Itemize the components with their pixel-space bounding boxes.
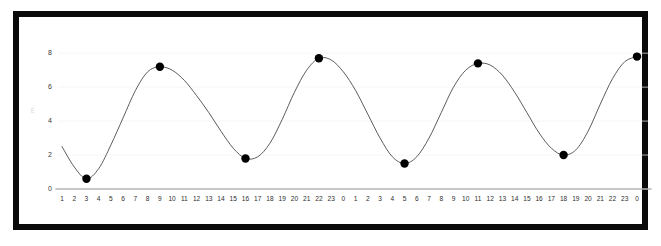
- chart-canvas: 02468 m 12345678910111213141516171819202…: [19, 17, 642, 224]
- y-axis-tick-label: 0: [38, 185, 52, 192]
- y-axis-tick-label: 2: [38, 151, 52, 158]
- data-point-markers: [82, 52, 641, 183]
- data-point-marker: [559, 151, 567, 159]
- data-point-marker: [400, 159, 408, 167]
- y-axis-tick-label: 6: [38, 83, 52, 90]
- data-point-marker: [82, 175, 90, 183]
- series-line-tide-height: [62, 57, 637, 179]
- data-point-marker: [156, 63, 164, 71]
- chart-frame-border: 02468 m 12345678910111213141516171819202…: [13, 11, 648, 230]
- chart-svg-container: [19, 17, 654, 236]
- line-chart-svg: [19, 17, 654, 236]
- plot-area: 02468 m 12345678910111213141516171819202…: [19, 17, 642, 224]
- data-point-marker: [474, 59, 482, 67]
- y-axis-tick-label: 4: [38, 117, 52, 124]
- data-point-marker: [241, 154, 249, 162]
- y-axis-title: m: [29, 108, 35, 114]
- data-point-marker: [633, 52, 641, 60]
- y-axis-tick-label: 8: [38, 49, 52, 56]
- data-point-marker: [315, 54, 323, 62]
- chart-screenshot: 02468 m 12345678910111213141516171819202…: [0, 0, 661, 246]
